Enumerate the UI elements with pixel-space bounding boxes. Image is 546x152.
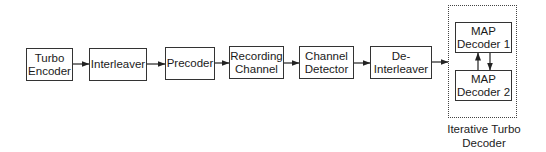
de-interleaver-block: De- Interleaver [370,46,432,79]
interleaver-block: Interleaver [89,48,147,81]
turbo-encoder-block: Turbo Encoder [26,48,73,81]
recording-channel-block: Recording Channel [229,46,284,79]
channel-detector-block: Channel Detector [299,46,354,79]
precoder-block: Precoder [165,47,215,80]
iterative-turbo-decoder-label: Iterative Turbo Decoder [434,123,534,150]
map-decoder-1-block: MAP Decoder 1 [455,22,512,53]
map-decoder-2-block: MAP Decoder 2 [455,70,512,101]
